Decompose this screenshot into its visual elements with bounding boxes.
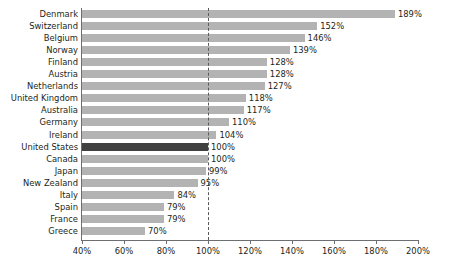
category-label-italy: Italy: [0, 190, 78, 200]
category-label-australia: Australia: [0, 105, 78, 115]
bar-italy: [82, 191, 174, 199]
bar-austria: [82, 70, 267, 78]
x-tick-mark: [166, 240, 167, 244]
bar-denmark: [82, 10, 395, 18]
bar-netherlands: [82, 82, 265, 90]
x-tick-mark: [208, 240, 209, 244]
bar-united-kingdom: [82, 94, 246, 102]
x-tick-label: 140%: [280, 246, 304, 256]
bar-row: New Zealand95%: [0, 178, 453, 190]
value-label-canada: 100%: [211, 154, 235, 164]
category-label-canada: Canada: [0, 154, 78, 164]
bar-germany: [82, 118, 229, 126]
x-tick-mark: [376, 240, 377, 244]
bar-row: Belgium146%: [0, 33, 453, 45]
value-label-japan: 99%: [209, 166, 228, 176]
bar-row: Finland128%: [0, 57, 453, 69]
category-label-norway: Norway: [0, 45, 78, 55]
value-label-switzerland: 152%: [320, 21, 344, 31]
bar-switzerland: [82, 22, 317, 30]
category-label-united-states: United States: [0, 142, 78, 152]
value-label-spain: 79%: [167, 202, 186, 212]
x-tick-label: 200%: [406, 246, 430, 256]
category-label-finland: Finland: [0, 57, 78, 67]
bar-row: United Kingdom118%: [0, 93, 453, 105]
bar-chart: Denmark189%Switzerland152%Belgium146%Nor…: [0, 0, 453, 269]
category-label-denmark: Denmark: [0, 9, 78, 19]
x-tick-label: 60%: [115, 246, 134, 256]
x-tick-mark: [334, 240, 335, 244]
category-label-new-zealand: New Zealand: [0, 178, 78, 188]
bar-row: Ireland104%: [0, 130, 453, 142]
bar-united-states: [82, 143, 208, 151]
bar-row: United States100%: [0, 142, 453, 154]
value-label-belgium: 146%: [308, 33, 332, 43]
bar-row: Greece70%: [0, 226, 453, 238]
value-label-australia: 117%: [247, 105, 271, 115]
reference-line-100-percent: [208, 8, 209, 240]
bar-finland: [82, 58, 267, 66]
category-label-belgium: Belgium: [0, 33, 78, 43]
value-label-france: 79%: [167, 214, 186, 224]
bar-row: Switzerland152%: [0, 21, 453, 33]
x-tick-mark: [124, 240, 125, 244]
value-label-new-zealand: 95%: [201, 178, 220, 188]
bar-row: Australia117%: [0, 105, 453, 117]
value-label-ireland: 104%: [219, 130, 243, 140]
x-tick-mark: [82, 240, 83, 244]
bar-belgium: [82, 34, 305, 42]
bar-row: Germany110%: [0, 117, 453, 129]
category-label-greece: Greece: [0, 226, 78, 236]
value-label-finland: 128%: [270, 57, 294, 67]
value-label-united-states: 100%: [211, 142, 235, 152]
bar-norway: [82, 46, 290, 54]
bar-row: Spain79%: [0, 202, 453, 214]
bar-australia: [82, 106, 244, 114]
value-label-united-kingdom: 118%: [249, 93, 273, 103]
bar-row: France79%: [0, 214, 453, 226]
bar-canada: [82, 155, 208, 163]
category-label-switzerland: Switzerland: [0, 21, 78, 31]
category-label-austria: Austria: [0, 69, 78, 79]
bar-greece: [82, 227, 145, 235]
bar-row: Canada100%: [0, 154, 453, 166]
bar-new-zealand: [82, 179, 198, 187]
bar-row: Netherlands127%: [0, 81, 453, 93]
bar-ireland: [82, 131, 216, 139]
bar-row: Japan99%: [0, 166, 453, 178]
category-label-spain: Spain: [0, 202, 78, 212]
value-label-netherlands: 127%: [268, 81, 292, 91]
value-label-greece: 70%: [148, 226, 167, 236]
x-tick-mark: [250, 240, 251, 244]
value-label-germany: 110%: [232, 117, 256, 127]
x-tick-label: 80%: [157, 246, 176, 256]
bar-france: [82, 215, 164, 223]
value-label-austria: 128%: [270, 69, 294, 79]
value-label-italy: 84%: [177, 190, 196, 200]
y-axis-line: [81, 8, 82, 240]
x-tick-label: 100%: [196, 246, 220, 256]
bar-spain: [82, 203, 164, 211]
category-label-united-kingdom: United Kingdom: [0, 93, 78, 103]
x-tick-label: 180%: [364, 246, 388, 256]
category-label-japan: Japan: [0, 166, 78, 176]
bar-japan: [82, 167, 206, 175]
bar-row: Norway139%: [0, 45, 453, 57]
bar-row: Italy84%: [0, 190, 453, 202]
x-tick-label: 120%: [238, 246, 262, 256]
x-tick-label: 160%: [322, 246, 346, 256]
category-label-germany: Germany: [0, 117, 78, 127]
x-tick-mark: [292, 240, 293, 244]
bar-row: Denmark189%: [0, 9, 453, 21]
x-tick-label: 40%: [73, 246, 92, 256]
x-tick-mark: [418, 240, 419, 244]
value-label-norway: 139%: [293, 45, 317, 55]
category-label-france: France: [0, 214, 78, 224]
plot-area: Denmark189%Switzerland152%Belgium146%Nor…: [0, 0, 453, 240]
bar-row: Austria128%: [0, 69, 453, 81]
value-label-denmark: 189%: [398, 9, 422, 19]
category-label-ireland: Ireland: [0, 130, 78, 140]
category-label-netherlands: Netherlands: [0, 81, 78, 91]
